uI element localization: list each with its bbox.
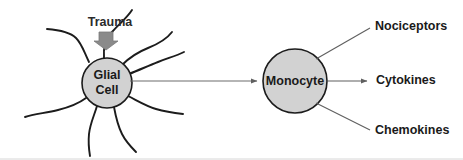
glial-cell-label-line2: Cell bbox=[96, 83, 119, 97]
trauma-label: Trauma bbox=[88, 15, 134, 29]
dendrite-bottom bbox=[114, 107, 136, 152]
down-arrow-icon bbox=[94, 32, 118, 50]
dendrite-right-upper bbox=[129, 52, 184, 74]
dendrite-right-lower bbox=[128, 96, 183, 114]
output-label-nociceptors: Nociceptors bbox=[375, 19, 447, 33]
leader-line-chemokines bbox=[316, 103, 370, 130]
dendrite-lower-left bbox=[25, 98, 86, 117]
monocyte-label: Monocyte bbox=[266, 74, 324, 88]
dendrite-bottom-left bbox=[89, 106, 97, 156]
dendrite-upper-left bbox=[47, 29, 89, 62]
diagram-svg: Glial Cell Trauma Monocyte Nociceptors C… bbox=[0, 0, 463, 160]
output-label-cytokines: Cytokines bbox=[376, 73, 436, 87]
glial-cell-label-line1: Glial bbox=[93, 68, 120, 82]
leader-line-nociceptors bbox=[316, 28, 370, 59]
figure-canvas: Glial Cell Trauma Monocyte Nociceptors C… bbox=[0, 0, 463, 160]
output-label-chemokines: Chemokines bbox=[375, 123, 449, 137]
